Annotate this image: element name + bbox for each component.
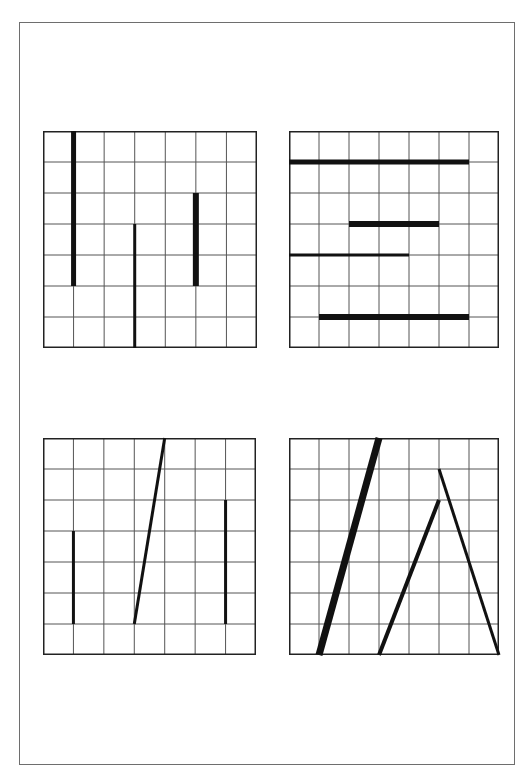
grid-border <box>290 439 499 655</box>
grid-svg <box>289 438 499 655</box>
grid-svg <box>43 131 257 348</box>
grid-panel-top-right <box>289 131 499 348</box>
grid-panel-bottom-right <box>289 438 499 655</box>
grid-panel-top-left <box>43 131 257 348</box>
grid-svg <box>289 131 499 348</box>
grid-svg <box>43 438 256 655</box>
grid-panel-bottom-left <box>43 438 256 655</box>
grid-border <box>44 439 256 655</box>
